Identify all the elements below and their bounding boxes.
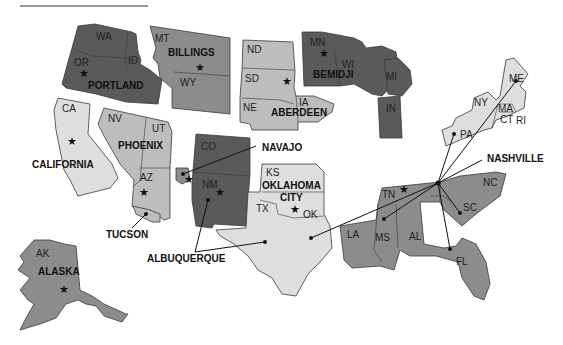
star-icon: ★ [290,203,300,215]
nm-facility-dot [206,198,210,202]
label-ri: RI [516,115,526,126]
label-california: CALIFORNIA [32,159,94,170]
label-nv: NV [108,113,122,124]
star-icon: ★ [59,283,69,295]
star-icon: ★ [282,75,292,87]
area-alaska [18,240,128,330]
us-ihs-area-map: WA OR ID MT WY ND SD NE IA MN WI MI IN C… [0,0,563,345]
label-billings: BILLINGS [168,47,215,58]
label-mi: MI [386,71,397,82]
label-ks: KS [266,167,280,178]
label-mt: MT [155,33,169,44]
label-ok: OK [303,209,318,220]
label-ny: NY [474,97,488,108]
label-alaska: ALASKA [38,266,80,277]
label-nashville: NASHVILLE [487,153,544,164]
label-wy: WY [180,77,196,88]
label-sc: SC [463,202,477,213]
area-nashville-south [340,172,506,300]
label-wa: WA [96,31,112,42]
star-icon: ★ [67,135,77,147]
label-az: AZ [140,172,153,183]
star-icon: ★ [215,186,225,198]
label-la: LA [347,229,360,240]
label-ms: MS [375,232,390,243]
label-co: CO [201,141,216,152]
star-icon: ★ [399,183,409,195]
label-ma: MA [498,103,513,114]
label-al: AL [409,231,422,242]
star-icon: ★ [184,173,194,185]
label-id: ID [128,55,138,66]
label-ut: UT [152,123,165,134]
label-navajo: NAVAJO [262,142,302,153]
tucson-leader [132,214,146,228]
label-ak: AK [36,248,50,259]
star-icon: ★ [79,67,89,79]
star-icon: ★ [319,47,329,59]
label-fl: FL [456,256,468,267]
label-aberdeen: ABERDEEN [271,107,327,118]
label-portland: PORTLAND [88,80,144,91]
label-oklahoma: OKLAHOMA [262,180,321,191]
label-tucson: TUCSON [106,229,148,240]
label-ct: CT [500,114,513,125]
label-nc: NC [483,177,497,188]
label-sd: SD [245,73,259,84]
label-ca: CA [62,103,76,114]
label-phoenix: PHOENIX [118,140,163,151]
label-ne: NE [243,102,257,113]
label-nd: ND [247,44,261,55]
label-albuquerque: ALBUQUERQUE [147,253,226,264]
label-in: IN [386,103,396,114]
label-me: ME [509,73,524,84]
label-city: CITY [280,192,303,203]
star-icon: ★ [139,186,149,198]
nashville-hub-dot [436,181,441,186]
label-tn: TN [382,189,395,200]
star-icon: ★ [195,61,205,73]
label-bemidji: BEMIDJI [313,69,354,80]
label-pa: PA [460,129,473,140]
label-tx: TX [256,203,269,214]
